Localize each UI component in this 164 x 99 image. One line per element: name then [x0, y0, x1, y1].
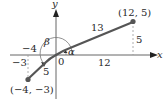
vertical-label-neg3: −3: [12, 58, 27, 68]
vertical-label-5: 5: [136, 35, 142, 45]
horizontal-label-neg4: −4: [22, 44, 37, 54]
figure: y x 0 (12, 5) (−4, −3) 13 12 5 5 −4 −3 α…: [0, 0, 164, 99]
point-label-neg4-neg3: (−4, −3): [10, 85, 54, 95]
y-axis-label: y: [52, 0, 58, 9]
hypotenuse-label-13: 13: [91, 23, 104, 33]
hypotenuse-label-5: 5: [43, 67, 49, 77]
y-axis-arrow-icon: [53, 9, 59, 17]
segment-to-neg4-neg3: [28, 55, 56, 79]
point-12-5: [130, 19, 135, 24]
point-neg4-neg3: [25, 77, 30, 82]
origin-label: 0: [58, 57, 64, 67]
x-axis-label: x: [157, 50, 163, 60]
alpha-label: α: [68, 47, 75, 57]
point-label-12-5: (12, 5): [118, 8, 151, 18]
beta-label: β: [44, 37, 50, 47]
horizontal-label-12: 12: [98, 58, 111, 68]
